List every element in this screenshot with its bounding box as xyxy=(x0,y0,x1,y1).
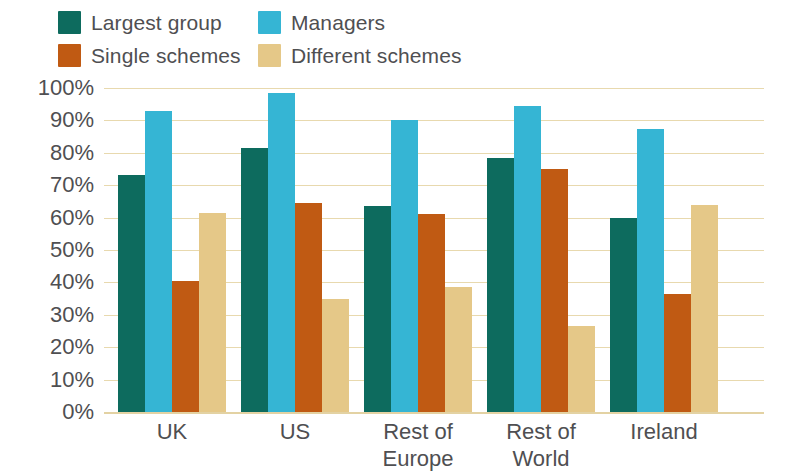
legend-swatch-single-schemes xyxy=(58,44,81,67)
legend-item-different-schemes: Different schemes xyxy=(258,39,498,72)
plot-area: 100%90%80%70%60%50%40%30%20%10%0% xyxy=(104,88,764,412)
bar-group xyxy=(241,88,349,412)
bar xyxy=(295,203,322,412)
legend-swatch-different-schemes xyxy=(258,44,281,67)
legend-item-single-schemes: Single schemes xyxy=(58,39,258,72)
bar xyxy=(487,158,514,412)
bar-groups xyxy=(104,88,764,412)
y-axis-tick: 30% xyxy=(50,304,94,326)
y-axis-tick: 0% xyxy=(62,401,94,423)
legend-swatch-largest-group xyxy=(58,11,81,34)
legend-label-different-schemes: Different schemes xyxy=(291,44,462,67)
bar-group xyxy=(487,88,595,412)
bar-group xyxy=(118,88,226,412)
bar xyxy=(514,106,541,412)
legend-label-managers: Managers xyxy=(291,11,385,34)
bar xyxy=(541,169,568,412)
y-axis-tick: 20% xyxy=(50,336,94,358)
y-axis-tick: 50% xyxy=(50,239,94,261)
bar xyxy=(241,148,268,412)
bar xyxy=(364,206,391,412)
legend-item-managers: Managers xyxy=(258,6,498,39)
y-axis-tick: 80% xyxy=(50,142,94,164)
legend-label-largest-group: Largest group xyxy=(91,11,222,34)
axis-baseline xyxy=(104,412,764,414)
bar xyxy=(691,205,718,412)
y-axis-tick: 60% xyxy=(50,207,94,229)
legend-item-largest-group: Largest group xyxy=(58,6,258,39)
bar xyxy=(445,287,472,412)
bar xyxy=(391,120,418,412)
y-axis-tick: 100% xyxy=(38,77,94,99)
bar xyxy=(418,214,445,412)
bar xyxy=(568,326,595,412)
bar xyxy=(145,111,172,412)
bar xyxy=(199,213,226,412)
bar xyxy=(172,281,199,412)
bar xyxy=(268,93,295,412)
bar xyxy=(322,299,349,412)
y-axis-tick: 70% xyxy=(50,174,94,196)
legend-label-single-schemes: Single schemes xyxy=(91,44,241,67)
bar xyxy=(118,175,145,412)
legend-swatch-managers xyxy=(258,11,281,34)
bar-group xyxy=(364,88,472,412)
bar xyxy=(664,294,691,412)
chart-legend: Largest group Managers Single schemes Di… xyxy=(58,6,528,72)
y-axis-tick: 10% xyxy=(50,369,94,391)
bar xyxy=(637,129,664,413)
x-axis-tick-labels: UKUSRest of EuropeRest of WorldIreland xyxy=(104,418,764,474)
bar-chart: Largest group Managers Single schemes Di… xyxy=(0,0,800,474)
y-axis-tick: 90% xyxy=(50,109,94,131)
bar-group xyxy=(610,88,718,412)
bar xyxy=(610,218,637,412)
y-axis-tick: 40% xyxy=(50,271,94,293)
x-axis-tick: Ireland xyxy=(590,418,738,445)
